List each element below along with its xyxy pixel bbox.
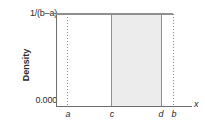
reference-line-d [161,14,162,106]
y-axis-min-tick-label: 0.000 [35,95,57,105]
uniform-density-line [56,13,173,15]
x-tick-label-d: d [158,109,163,119]
reference-line-a [67,14,68,106]
y-axis-line [56,13,57,106]
x-axis-title: x [194,99,199,109]
y-axis-title: Density [21,30,31,100]
x-axis-line [56,106,192,107]
x-tick-label-c: c [110,109,115,119]
x-tick-label-b: b [171,109,176,119]
shaded-probability-region [111,14,161,106]
reference-line-c [111,14,112,106]
reference-line-b [173,14,174,106]
x-tick-label-a: a [65,109,70,119]
uniform-distribution-chart: 1/(b–a) 0.000 Density a c d b x [0,0,205,127]
